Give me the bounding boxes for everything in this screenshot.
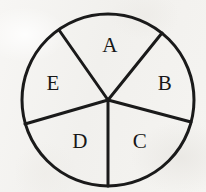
radius-b-c-divider bbox=[108, 100, 191, 122]
sector-label-c: C bbox=[133, 129, 147, 153]
radius-e-a-divider bbox=[59, 30, 108, 100]
circle-sector-diagram: A B C D E bbox=[0, 0, 206, 192]
sector-label-d: D bbox=[72, 129, 87, 153]
radius-d-e-divider bbox=[25, 100, 108, 124]
sector-label-b: B bbox=[158, 71, 172, 95]
figure-container: A B C D E bbox=[0, 0, 206, 192]
sector-label-a: A bbox=[102, 33, 118, 57]
sector-label-e: E bbox=[46, 71, 59, 95]
